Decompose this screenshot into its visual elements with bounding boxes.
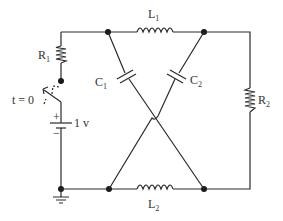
battery-label: 1 v (74, 116, 89, 130)
capacitor-c1-icon (117, 70, 136, 83)
inductor-l2-icon (137, 185, 173, 189)
battery-plus: + (53, 110, 60, 124)
c2-label: C2 (190, 73, 202, 89)
battery-minus: − (53, 126, 60, 140)
l2-label: L2 (148, 197, 159, 213)
inductor-l1-icon (137, 28, 173, 32)
bottom-wire (61, 112, 250, 189)
switch-label: t = 0 (12, 93, 34, 107)
diagonal-wire-c2 (109, 32, 204, 189)
r1-label: R1 (38, 48, 50, 64)
top-wire (61, 32, 250, 88)
resistor-r2-icon (245, 88, 255, 112)
l1-label: L1 (148, 7, 159, 23)
ground-icon (53, 189, 69, 203)
circuit-diagram: R1 t = 0 + − 1 v L1 L2 (0, 0, 283, 221)
switch-icon (43, 86, 61, 104)
node-dot (58, 78, 64, 84)
c1-label: C1 (95, 75, 107, 91)
resistor-r1-icon (56, 46, 66, 63)
capacitor-c2-icon (167, 70, 186, 83)
r2-label: R2 (258, 93, 270, 109)
